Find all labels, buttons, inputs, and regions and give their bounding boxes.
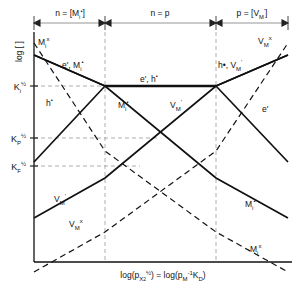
curve-Mi-charged — [34, 55, 288, 218]
label-e-right: e' — [262, 104, 269, 114]
chart-svg: n = [Mi•] n = p p = [VM'] — [0, 0, 302, 289]
arrow-r2-left — [105, 20, 111, 26]
label-VM-lowerleft: VM' — [54, 193, 66, 206]
y-tick-label-KP: KP½ — [11, 133, 26, 146]
curve-Mi-neutral — [34, 43, 288, 272]
charged-defect-curves — [34, 55, 288, 218]
arrow-left-end — [34, 20, 40, 26]
label-h-left: h• — [46, 97, 53, 108]
brouwer-diagram-figure: n = [Mi•] n = p p = [VM'] — [0, 0, 302, 289]
label-Mi-x-topleft: Mix — [38, 36, 49, 49]
neutral-defect-curves — [34, 43, 288, 272]
region-bar — [34, 16, 288, 30]
label-VM-x-topright: VMx — [258, 35, 272, 48]
curve-VM-charged — [34, 55, 288, 218]
label-Mi-middle: Mi• — [118, 99, 129, 112]
curve-VM-neutral — [34, 43, 288, 272]
label-VM-x-lowerleft: VMx — [69, 218, 83, 231]
x-axis-title: log(pX2½) = log(pM-1KD) — [120, 270, 206, 282]
label-e-Mi-upper: e', Mi• — [62, 59, 84, 72]
label-Mi-lowerright: Mi• — [245, 198, 256, 211]
y-tick-label-Ki: Ki½ — [14, 81, 26, 94]
label-h-VM-right: h•, VM' — [218, 59, 242, 72]
region-label-n-eq-p: n = p — [150, 8, 169, 18]
region-label-n-eq-Mi: n = [Mi•] — [55, 8, 85, 20]
arrow-r3-left — [216, 20, 222, 26]
region-label-p-eq-VM: p = [VM'] — [237, 8, 268, 20]
arrow-right-end — [282, 20, 288, 26]
label-VM-middle: VM' — [170, 99, 182, 112]
label-e-h-plateau: e', h• — [140, 73, 158, 84]
y-axis-title: log [ ] — [14, 41, 24, 62]
y-tick-label-KF: KF½ — [11, 161, 26, 174]
